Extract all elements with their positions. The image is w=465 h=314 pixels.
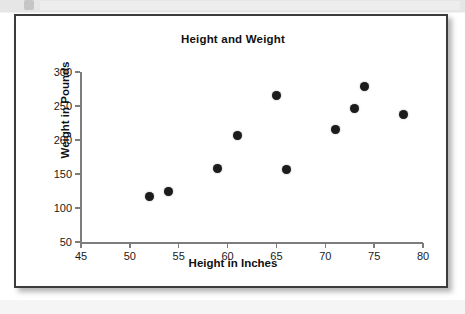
x-tick-mark [178, 243, 180, 248]
page-bottom-band [0, 300, 465, 314]
x-tick-mark [129, 243, 131, 248]
x-tick-label: 60 [221, 250, 233, 262]
data-point [350, 104, 359, 113]
x-tick-label: 45 [75, 250, 87, 262]
x-tick-label: 70 [319, 250, 331, 262]
chart-card: Height and Weight Weight in Pounds Heigh… [14, 14, 448, 288]
y-axis-line [80, 72, 82, 243]
x-tick-mark [276, 243, 278, 248]
x-tick-mark [373, 243, 375, 248]
data-point [145, 192, 154, 201]
data-point [213, 164, 222, 173]
page-canvas: Height and Weight Weight in Pounds Heigh… [0, 0, 465, 314]
y-tick-label: 200 [54, 134, 72, 146]
x-tick-label: 80 [417, 250, 429, 262]
x-tick-mark [422, 243, 424, 248]
y-tick-mark [75, 207, 80, 209]
x-axis-line [80, 242, 423, 244]
y-tick-label: 100 [54, 202, 72, 214]
y-tick-mark [75, 71, 80, 73]
x-tick-mark [325, 243, 327, 248]
y-tick-label: 50 [60, 236, 72, 248]
data-point [233, 131, 242, 140]
plot-area: 50100150200250300 4550556065707580 [81, 72, 423, 242]
y-tick-mark [75, 139, 80, 141]
y-tick-label: 300 [54, 66, 72, 78]
data-point [272, 91, 281, 100]
x-tick-mark [227, 243, 229, 248]
x-tick-label: 50 [124, 250, 136, 262]
y-tick-label: 250 [54, 100, 72, 112]
x-tick-label: 75 [368, 250, 380, 262]
x-tick-mark [80, 243, 82, 248]
data-point [164, 187, 173, 196]
y-tick-mark [75, 105, 80, 107]
data-point [399, 110, 408, 119]
data-point [331, 125, 340, 134]
data-point [360, 82, 369, 91]
x-tick-label: 65 [270, 250, 282, 262]
top-banner-strip [0, 0, 465, 13]
data-point [282, 165, 291, 174]
banner-fill [40, 1, 460, 10]
banner-mark-icon [24, 0, 34, 10]
y-tick-mark [75, 173, 80, 175]
y-tick-label: 150 [54, 168, 72, 180]
x-tick-label: 55 [173, 250, 185, 262]
chart-title: Height and Weight [16, 33, 450, 45]
y-tick-mark [75, 241, 80, 243]
